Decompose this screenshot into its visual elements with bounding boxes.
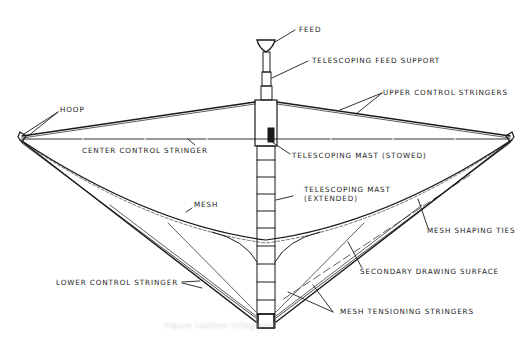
telescoping-feed-support <box>261 52 272 100</box>
label-telescoping-feed-support: TELESCOPING FEED SUPPORT <box>312 57 440 65</box>
label-telescoping-mast-extended-1: TELESCOPING MAST <box>304 186 391 194</box>
label-center-control-stringer: CENTER CONTROL STRINGER <box>82 147 208 155</box>
label-telescoping-mast-stowed: TELESCOPING MAST (STOWED) <box>292 152 427 160</box>
label-feed: FEED <box>299 26 321 34</box>
label-hoop: HOOP <box>60 106 85 114</box>
label-mesh-tensioning-stringers: MESH TENSIONING STRINGERS <box>340 308 474 316</box>
label-telescoping-mast-extended-2: (EXTENDED) <box>304 195 358 203</box>
feed-horn <box>257 40 275 52</box>
stowed-mast-block <box>268 128 274 142</box>
label-mesh: MESH <box>194 201 218 209</box>
figure-caption: Figure caption (illegible) <box>165 322 276 330</box>
antenna-diagram <box>0 0 532 340</box>
telescoping-mast <box>257 146 275 328</box>
label-secondary-drawing-surface: SECONDARY DRAWING SURFACE <box>360 268 499 276</box>
label-mesh-shaping-ties: MESH SHAPING TIES <box>427 227 515 235</box>
upper-control-stringers <box>22 102 510 138</box>
label-upper-control-stringers: UPPER CONTROL STRINGERS <box>383 89 508 97</box>
label-lower-control-stringer: LOWER CONTROL STRINGER <box>56 279 178 287</box>
